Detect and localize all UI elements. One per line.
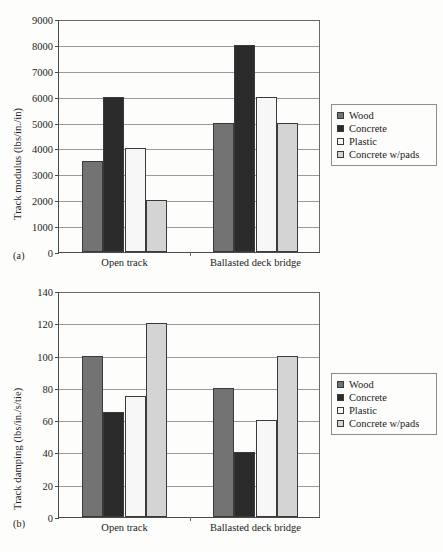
- legend-item: Concrete w/pads: [337, 417, 430, 430]
- y-axis-label: 40: [43, 448, 54, 459]
- y-axis-label: 120: [37, 319, 53, 330]
- legend-swatch-icon: [337, 112, 344, 119]
- legend-item-label: Wood: [349, 110, 374, 121]
- legend-item: Plastic: [337, 404, 430, 417]
- legend-item-label: Plastic: [349, 405, 377, 416]
- legend-swatch-icon: [337, 394, 344, 401]
- figure-panel-a: (a) Track modulus (lbs/in./in) 010002000…: [0, 0, 443, 278]
- y-axis-label: 1000: [32, 222, 53, 233]
- y-axis-tick: [55, 518, 59, 519]
- legend-item-label: Concrete w/pads: [349, 418, 419, 429]
- legend-a: WoodConcretePlasticConcrete w/pads: [331, 104, 437, 166]
- legend-item-label: Plastic: [349, 136, 377, 147]
- x-axis-tick: [190, 252, 191, 256]
- bar: [256, 420, 277, 517]
- x-axis-category-label: Open track: [101, 257, 147, 268]
- bar: [213, 123, 234, 252]
- bars-layer-b: [59, 292, 320, 517]
- bars-layer-a: [59, 20, 320, 252]
- legend-swatch-icon: [337, 138, 344, 145]
- legend-item-label: Concrete: [349, 392, 387, 403]
- bar: [277, 356, 298, 517]
- x-axis-category-label: Open track: [101, 522, 147, 533]
- y-axis-label: 80: [43, 383, 54, 394]
- legend-swatch-icon: [337, 407, 344, 414]
- x-axis-tick: [190, 517, 191, 521]
- y-axis-label: 2000: [32, 196, 53, 207]
- legend-swatch-icon: [337, 381, 344, 388]
- y-axis-label: 3000: [32, 170, 53, 181]
- legend-item: Concrete: [337, 122, 430, 135]
- y-axis-label: 9000: [32, 15, 53, 26]
- bar: [103, 412, 124, 517]
- legend-item: Wood: [337, 378, 430, 391]
- y-axis-label: 20: [43, 480, 54, 491]
- bar: [277, 123, 298, 252]
- bar: [234, 452, 255, 517]
- y-axis-tick: [55, 253, 59, 254]
- bar: [234, 45, 255, 252]
- legend-swatch-icon: [337, 125, 344, 132]
- bar: [103, 97, 124, 252]
- y-axis-label: 4000: [32, 144, 53, 155]
- y-axis-label: 6000: [32, 92, 53, 103]
- bar: [82, 356, 103, 517]
- bar: [125, 148, 146, 252]
- legend-b: WoodConcretePlasticConcrete w/pads: [331, 373, 437, 435]
- y-axis-title-a: Track modulus (lbs/in./in): [12, 60, 23, 220]
- panel-letter-b: (b): [13, 518, 25, 529]
- y-axis-label: 7000: [32, 66, 53, 77]
- bar: [146, 200, 167, 252]
- legend-item: Concrete w/pads: [337, 148, 430, 161]
- y-axis-label: 0: [48, 513, 53, 524]
- y-axis-label: 140: [37, 287, 53, 298]
- y-axis-label: 5000: [32, 118, 53, 129]
- bar: [256, 97, 277, 252]
- y-axis-label: 60: [43, 416, 54, 427]
- y-axis-label: 100: [37, 351, 53, 362]
- bar: [125, 396, 146, 517]
- plot-area-a: 0100020003000400050006000700080009000Ope…: [58, 20, 320, 253]
- legend-item: Concrete: [337, 391, 430, 404]
- bar: [82, 161, 103, 252]
- figure-panel-b: (b) Track damping (lbs/in./s/tie) 020406…: [0, 278, 443, 552]
- y-axis-title-b: Track damping (lbs/in./s/tie): [12, 340, 23, 510]
- legend-item-label: Concrete w/pads: [349, 149, 419, 160]
- legend-item-label: Concrete: [349, 123, 387, 134]
- y-axis-label: 8000: [32, 40, 53, 51]
- panel-letter-a: (a): [13, 250, 25, 261]
- x-axis-category-label: Ballasted deck bridge: [210, 522, 301, 533]
- plot-area-b: 020406080100120140Open trackBallasted de…: [58, 292, 320, 518]
- legend-item: Wood: [337, 109, 430, 122]
- y-axis-label: 0: [48, 248, 53, 259]
- bar: [146, 323, 167, 517]
- legend-swatch-icon: [337, 151, 344, 158]
- legend-item: Plastic: [337, 135, 430, 148]
- legend-item-label: Wood: [349, 379, 374, 390]
- x-axis-category-label: Ballasted deck bridge: [210, 257, 301, 268]
- bar: [213, 388, 234, 517]
- legend-swatch-icon: [337, 420, 344, 427]
